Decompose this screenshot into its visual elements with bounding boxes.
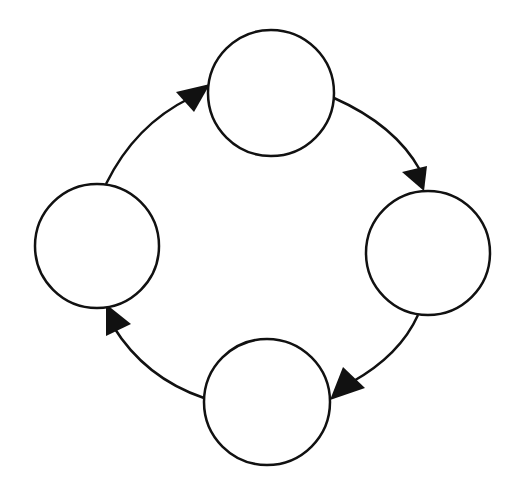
node-top	[208, 30, 334, 156]
cycle-diagram	[0, 0, 519, 493]
edge-top-to-right	[334, 98, 420, 170]
node-right	[366, 191, 490, 315]
arrowhead-right-bottom-icon	[330, 367, 365, 400]
nodes	[35, 30, 490, 465]
edge-right-to-bottom	[352, 315, 418, 382]
node-bottom	[204, 339, 330, 465]
node-left	[35, 184, 159, 308]
edge-left-to-top	[106, 98, 190, 184]
arrowhead-top-right-icon	[402, 166, 427, 191]
arrowhead-left-top-icon	[176, 84, 210, 112]
edge-bottom-to-left	[113, 326, 204, 398]
arrowhead-bottom-left-icon	[106, 304, 131, 336]
